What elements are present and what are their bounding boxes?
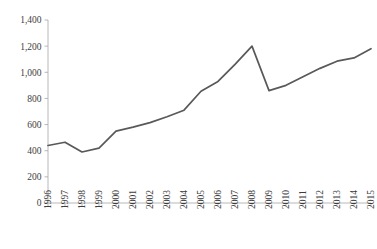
x-tick-label: 2013 [332, 190, 342, 209]
y-tick-label: 800 [27, 94, 42, 104]
x-tick-label: 2004 [179, 190, 189, 209]
y-tick-label: 1,200 [20, 42, 42, 52]
y-tick-label: 200 [27, 172, 42, 182]
x-tick-label: 2003 [162, 190, 172, 209]
x-tick-label: 2015 [366, 190, 376, 209]
x-tick-label: 2014 [349, 190, 359, 209]
y-axis: 02004006008001,0001,2001,400 [20, 15, 48, 208]
y-tick-label: 400 [27, 146, 42, 156]
x-tick-label: 2001 [128, 190, 138, 209]
data-series [48, 46, 371, 152]
y-tick-label: 600 [27, 120, 42, 130]
x-tick-label: 2005 [196, 190, 206, 209]
x-tick-label: 2008 [247, 190, 257, 209]
x-tick-label: 2009 [264, 190, 274, 209]
x-tick-label: 1999 [94, 190, 104, 209]
x-tick-label: 1996 [43, 190, 53, 209]
y-tick-label: 1,000 [20, 68, 42, 78]
x-tick-label: 2010 [281, 190, 291, 209]
x-tick-label: 1998 [77, 190, 87, 209]
y-tick-label: 1,400 [20, 15, 42, 25]
x-tick-label: 2000 [111, 190, 121, 209]
x-tick-label: 2002 [145, 190, 155, 209]
x-tick-label: 2006 [213, 190, 223, 209]
x-tick-label: 2011 [298, 190, 308, 209]
x-tick-label: 1997 [60, 190, 70, 209]
line-chart: 02004006008001,0001,2001,400 19961997199… [0, 0, 377, 249]
x-axis: 1996199719981999200020012002200320042005… [43, 190, 376, 209]
y-tick-label: 0 [37, 198, 42, 208]
series-line-0 [48, 46, 371, 152]
x-tick-label: 2007 [230, 190, 240, 209]
chart-canvas: 02004006008001,0001,2001,400 19961997199… [0, 0, 377, 249]
x-tick-label: 2012 [315, 190, 325, 209]
